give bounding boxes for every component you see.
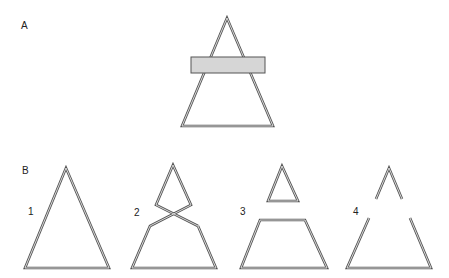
- figure-3-triangle-and-trapezoid: 3: [240, 166, 327, 268]
- panel-a-label: A: [21, 20, 28, 31]
- figure-1-complete-triangle: 1: [25, 168, 109, 268]
- panel-b-label: B: [22, 165, 29, 176]
- figure-2-crossed-shape: 2: [132, 165, 216, 268]
- figure-4-label: 4: [353, 206, 359, 217]
- diagram-canvas: A B 1 2 3 4: [0, 0, 449, 278]
- figure-2-label: 2: [134, 207, 140, 218]
- figure-3-label: 3: [240, 206, 246, 217]
- figure-4-gapped-triangle: 4: [347, 168, 431, 268]
- figure-1-label: 1: [28, 206, 34, 217]
- panel-a: A: [21, 18, 273, 126]
- occluder-bar: [191, 57, 265, 73]
- panel-b: B 1 2 3 4: [22, 165, 431, 268]
